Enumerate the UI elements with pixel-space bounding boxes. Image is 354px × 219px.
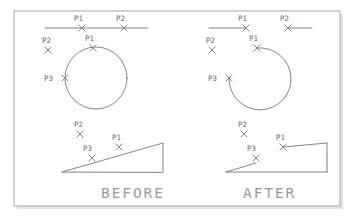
point-label-p1-circle-row: P1 xyxy=(249,34,258,43)
point-label-p2-line-row: P2 xyxy=(116,14,125,23)
point-label-p2-circle-row: P2 xyxy=(206,36,215,45)
trim-diagram-svg: P1P2P2P1P3P2P1P3 BEFORE P1P2P2P1P3P2P1P3… xyxy=(0,0,354,219)
diagram-frame xyxy=(14,11,340,206)
point-label-p1-triangle-row: P1 xyxy=(276,133,285,142)
point-label-p3-triangle-row: P3 xyxy=(83,144,92,153)
caption-before: BEFORE xyxy=(101,185,165,201)
point-label-p3-circle-row: P3 xyxy=(208,74,217,83)
point-label-p3-circle-row: P3 xyxy=(44,74,53,83)
point-label-p1-line-row: P1 xyxy=(238,14,247,23)
point-label-p1-triangle-row: P1 xyxy=(112,133,121,142)
point-label-p1-circle-row: P1 xyxy=(85,34,94,43)
point-label-p2-triangle-row: P2 xyxy=(74,120,83,129)
figure-root: P1P2P2P1P3P2P1P3 BEFORE P1P2P2P1P3P2P1P3… xyxy=(0,0,354,219)
caption-after: AFTER xyxy=(243,185,296,201)
point-label-p2-circle-row: P2 xyxy=(42,36,51,45)
point-label-p2-line-row: P2 xyxy=(280,14,289,23)
point-label-p1-line-row: P1 xyxy=(74,14,83,23)
point-label-p2-triangle-row: P2 xyxy=(238,120,247,129)
point-label-p3-triangle-row: P3 xyxy=(247,144,256,153)
